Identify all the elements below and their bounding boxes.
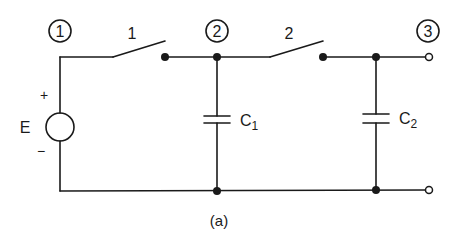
svg-text:3: 3 bbox=[424, 23, 433, 40]
capacitor-c1: C1 bbox=[204, 57, 259, 191]
switch-2-blade bbox=[270, 41, 323, 57]
source-label: E bbox=[20, 119, 31, 136]
output-terminal-top bbox=[426, 54, 433, 61]
capacitor-c2: C2 bbox=[363, 57, 418, 191]
ground-junction-c2 bbox=[372, 186, 380, 194]
switch-2-label: 2 bbox=[285, 25, 294, 42]
svg-text:1: 1 bbox=[56, 23, 65, 40]
switch-1-blade bbox=[113, 41, 165, 57]
c2-label: C2 bbox=[399, 110, 418, 131]
switch-1-label: 1 bbox=[128, 25, 137, 42]
voltage-source: + − E bbox=[20, 57, 74, 191]
ground-junction-c1 bbox=[213, 187, 221, 195]
svg-text:2: 2 bbox=[213, 23, 222, 40]
output-terminal-bottom bbox=[426, 187, 433, 194]
circuit-diagram: 1 2 3 1 2 + − E C1 bbox=[0, 0, 460, 245]
node-label-2: 2 bbox=[206, 20, 228, 42]
node-label-3: 3 bbox=[417, 20, 439, 42]
node-label-1: 1 bbox=[49, 20, 71, 42]
plus-sign: + bbox=[40, 87, 48, 103]
minus-sign: − bbox=[37, 143, 45, 159]
c1-label: C1 bbox=[240, 112, 259, 133]
ground-wire bbox=[60, 190, 426, 191]
figure-caption: (a) bbox=[210, 212, 228, 229]
